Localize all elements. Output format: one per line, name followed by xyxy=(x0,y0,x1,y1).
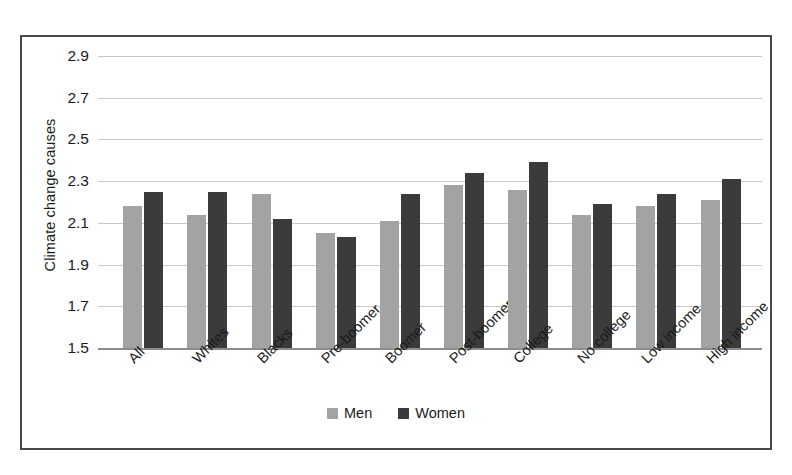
legend-entry: Men xyxy=(327,405,372,421)
legend-label: Men xyxy=(344,405,372,421)
bar-group: Pre-boomer xyxy=(316,56,358,348)
chart-figure-frame: Climate change causes 2.92.72.52.32.11.9… xyxy=(20,35,772,450)
bar-men xyxy=(444,185,463,348)
chart-legend: MenWomen xyxy=(22,405,770,421)
bar-men xyxy=(187,215,206,348)
bar-group: No college xyxy=(572,56,614,348)
legend-label: Women xyxy=(415,405,465,421)
y-tick-label: 2.1 xyxy=(67,214,89,232)
y-tick-label: 2.9 xyxy=(67,47,89,65)
bar-group: Boomer xyxy=(380,56,422,348)
y-tick-label: 2.7 xyxy=(67,89,89,107)
y-axis-title: Climate change causes xyxy=(42,55,58,335)
bar-group: Whites xyxy=(187,56,229,348)
bar-men xyxy=(572,215,591,348)
bar-group: Blacks xyxy=(252,56,294,348)
bar-group: Low income xyxy=(636,56,678,348)
bar-men xyxy=(701,200,720,348)
bar-group: College xyxy=(508,56,550,348)
bar-men xyxy=(380,221,399,348)
y-tick-label: 1.7 xyxy=(67,297,89,315)
y-tick-label: 1.9 xyxy=(67,256,89,274)
bar-group: All xyxy=(123,56,165,348)
y-tick-label: 2.3 xyxy=(67,172,89,190)
legend-entry: Women xyxy=(398,405,465,421)
legend-swatch-icon xyxy=(398,408,409,419)
bar-women xyxy=(144,192,163,348)
legend-swatch-icon xyxy=(327,408,338,419)
y-tick-label: 1.5 xyxy=(67,339,89,357)
bar-men xyxy=(252,194,271,348)
bar-men xyxy=(636,206,655,348)
bar-men xyxy=(508,190,527,349)
bar-group: High income xyxy=(701,56,743,348)
bars-layer: AllWhitesBlacksPre-boomerBoomerPost-boom… xyxy=(98,56,762,348)
bar-group: Post-boomer xyxy=(444,56,486,348)
bar-men xyxy=(123,206,142,348)
plot-area: 2.92.72.52.32.11.91.71.5 AllWhitesBlacks… xyxy=(98,56,762,348)
bar-men xyxy=(316,233,335,348)
y-tick-label: 2.5 xyxy=(67,130,89,148)
